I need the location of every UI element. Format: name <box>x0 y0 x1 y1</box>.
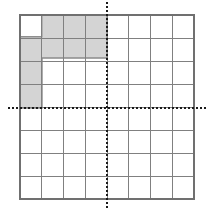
white-notch-cell <box>20 15 42 37</box>
grid-svg <box>0 0 210 211</box>
coordinate-grid-figure <box>0 0 210 211</box>
